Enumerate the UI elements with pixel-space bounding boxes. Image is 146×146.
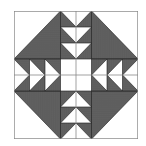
quilt-block: Basket quilt block — [14, 11, 138, 139]
basket-bottom-right — [76, 75, 138, 139]
basket-bottom-left — [14, 75, 76, 139]
quilt-block-diagram — [14, 11, 138, 139]
basket-top-right — [76, 11, 138, 75]
basket-top-left — [14, 11, 76, 75]
